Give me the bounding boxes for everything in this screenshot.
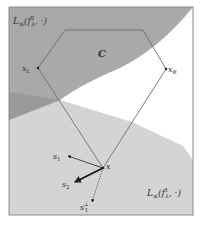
point-x-l: [37, 67, 40, 70]
set-c-label: C: [98, 48, 106, 59]
upper-region-label: L≤(f2λ, ·): [12, 15, 47, 27]
point-x-r: [165, 68, 168, 71]
diagram-canvas: L≤(f2λ, ·) C xL xR x s1 s2 s⊥1 L≤(f1λ, ·…: [0, 0, 204, 226]
x-label: x: [106, 162, 111, 171]
lower-region-label: L≤(f1λ, ·): [146, 187, 181, 199]
s1-perp-label: s⊥1: [80, 201, 89, 213]
